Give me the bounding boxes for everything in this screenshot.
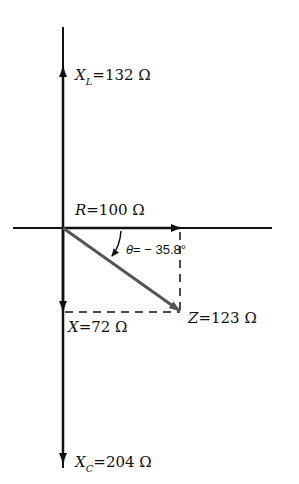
xl-label: XL=132 Ω [74, 66, 151, 87]
z-label: Z=123 Ω [187, 309, 257, 327]
z-impedance-vector [63, 228, 180, 311]
x-label: X=72 Ω [67, 318, 128, 336]
xc-label: XC=204 Ω [74, 453, 152, 474]
theta-angle-arc-icon [112, 231, 121, 256]
theta-label: θ= − 35.8° [126, 242, 186, 257]
phasor-diagram: XL=132 Ω R=100 Ω θ= − 35.8° X=72 Ω Z=123… [0, 0, 299, 484]
r-label: R=100 Ω [74, 201, 145, 219]
